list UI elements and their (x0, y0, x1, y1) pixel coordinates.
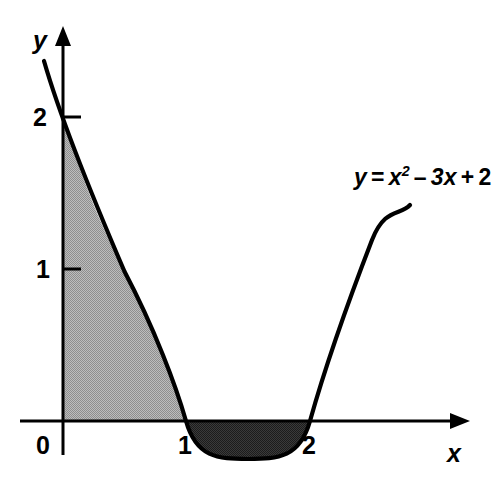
x-tick-label-1: 1 (178, 433, 192, 458)
parabola-plot (0, 0, 493, 487)
x-axis-label: x (447, 441, 461, 466)
equation-term1-exponent: 2 (402, 163, 410, 179)
x-axis-arrowhead (450, 413, 470, 429)
equation-equals: = (371, 164, 385, 190)
y-tick-label-1: 1 (36, 257, 50, 282)
equation-term3: 2 (478, 164, 491, 190)
figure-canvas: y x 2 1 0 1 2 y=x2–3x+2 (0, 0, 493, 487)
equation-term2: 3x (431, 164, 457, 190)
equation-plus: + (461, 164, 475, 190)
y-tick-label-2: 2 (33, 105, 47, 130)
equation-term1-base: x (389, 164, 402, 190)
curve-equation-label: y=x2–3x+2 (354, 166, 491, 189)
x-tick-label-0: 0 (36, 433, 50, 458)
y-axis-label: y (33, 28, 47, 53)
equation-lhs: y (354, 164, 367, 190)
equation-minus: – (414, 164, 427, 190)
x-tick-label-2: 2 (302, 433, 316, 458)
y-axis-arrowhead (55, 26, 71, 46)
